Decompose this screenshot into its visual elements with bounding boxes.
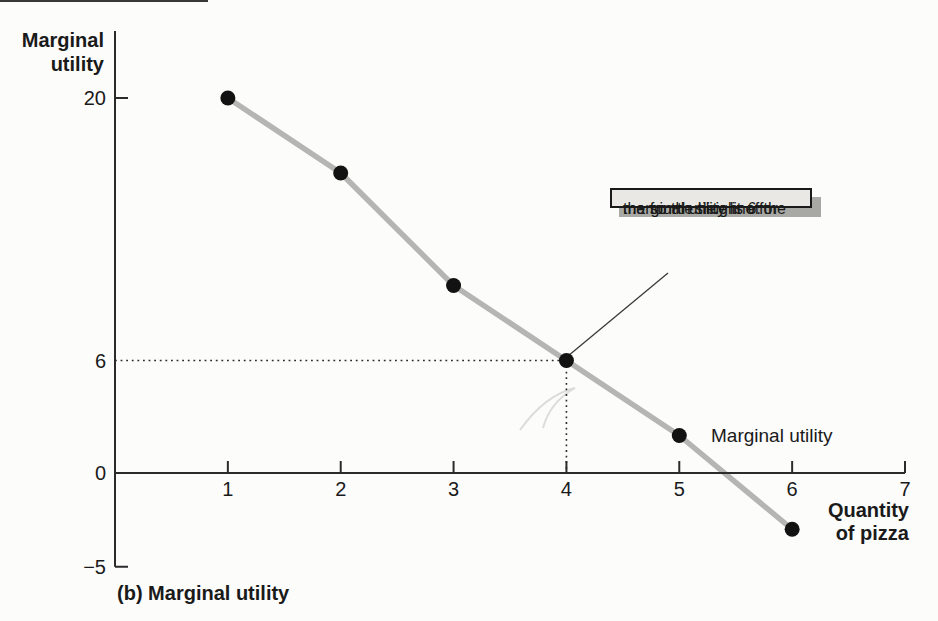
x-axis-title-line-1: Quantity (828, 499, 909, 521)
callout-box: . . . so the height of the marginal util… (610, 188, 812, 208)
data-point (559, 353, 574, 368)
y-tick-label: 0 (24, 461, 106, 485)
x-tick-label: 4 (546, 478, 586, 501)
figure-caption: (b) Marginal utility (117, 582, 289, 605)
y-tick-label: 20 (24, 86, 106, 110)
x-tick-label: 5 (659, 478, 699, 501)
x-tick-label: 6 (772, 478, 812, 501)
x-axis-title: Quantity of pizza (828, 499, 909, 545)
y-tick-label: −5 (24, 555, 106, 579)
x-tick-label: 2 (321, 478, 361, 501)
y-axis-title-line-1: Marginal (22, 29, 104, 51)
y-axis-title-line-2: utility (51, 53, 104, 75)
y-tick-label: 6 (24, 349, 106, 373)
x-axis-title-line-2: of pizza (836, 522, 909, 544)
callout-text-line-3: the fourth slice is 6. (623, 198, 761, 220)
x-tick-label: 7 (885, 478, 925, 501)
data-point (785, 522, 800, 537)
data-point (446, 278, 461, 293)
chart-svg (0, 0, 938, 621)
data-point (220, 91, 235, 106)
marginal-utility-line (228, 98, 792, 529)
x-tick-label: 1 (208, 478, 248, 501)
y-axis-title: Marginal utility (0, 28, 104, 76)
data-point (672, 428, 687, 443)
series-label: Marginal utility (711, 425, 832, 447)
data-point (333, 166, 348, 181)
figure-marginal-utility-chart: Marginal utility Marginal utility . . . … (0, 0, 938, 621)
x-tick-label: 3 (434, 478, 474, 501)
callout-leader-line (568, 273, 668, 356)
